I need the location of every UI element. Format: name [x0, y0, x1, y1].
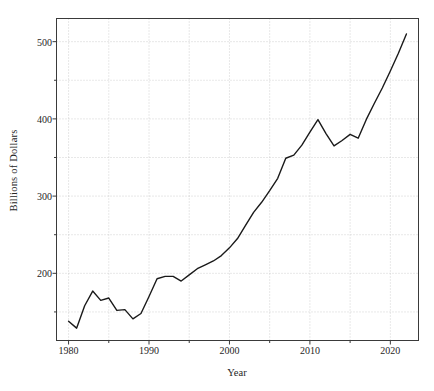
x-axis-label: Year: [56, 367, 418, 378]
x-tick-label: 2020: [360, 345, 420, 356]
plot-area: [0, 0, 434, 391]
chart-figure: Billions of Dollars 200300400500 1980199…: [0, 0, 434, 391]
gridlines: [57, 19, 419, 341]
x-tick-label: 2000: [199, 345, 259, 356]
x-tick-label: 1980: [39, 345, 99, 356]
data-series-line: [69, 34, 407, 328]
plot-frame: [57, 19, 419, 341]
x-tick-label: 1990: [119, 345, 179, 356]
x-tick-label: 2010: [280, 345, 340, 356]
